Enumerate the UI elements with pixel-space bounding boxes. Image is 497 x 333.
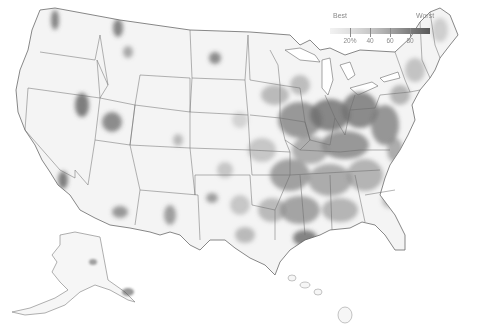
legend-best-label: Best — [333, 12, 347, 19]
us-county-map — [0, 0, 497, 333]
legend-tick-label: 60 — [386, 37, 393, 44]
alaska — [12, 232, 135, 315]
legend-worst-label: Worst — [416, 12, 434, 19]
legend-tick-label: 40 — [366, 37, 373, 44]
legend-tick — [350, 28, 351, 37]
legend-gradient-bar — [330, 28, 430, 34]
legend-tick-label: 80 — [406, 37, 413, 44]
legend-tick — [390, 28, 391, 37]
legend-tick — [410, 28, 411, 37]
hawaii — [288, 275, 352, 323]
map-legend: Best Worst 20% 40 60 80 — [330, 12, 450, 42]
legend-tick — [370, 28, 371, 37]
legend-tick-label: 20% — [343, 37, 356, 44]
